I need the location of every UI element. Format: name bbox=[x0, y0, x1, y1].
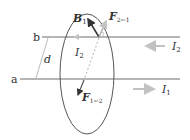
b-field-vector bbox=[88, 19, 99, 37]
diagram-svg: b a d I2 I2 I1 B1 F2←1 F1←2 bbox=[0, 0, 190, 140]
wire-a-label: a bbox=[11, 73, 18, 86]
current-i1-label: I1 bbox=[161, 83, 171, 97]
current-i2-label: I2 bbox=[171, 40, 181, 54]
diagram-canvas: b a d I2 I2 I1 B1 F2←1 F1←2 bbox=[0, 0, 190, 140]
separation-label: d bbox=[44, 53, 51, 66]
force-on-1-label: F1←2 bbox=[81, 91, 103, 104]
current-loop bbox=[60, 14, 114, 134]
wire-b-label: b bbox=[33, 31, 40, 44]
force-on-2-label: F2←1 bbox=[108, 10, 129, 23]
loop-current-label: I2 bbox=[74, 46, 84, 60]
projection-dotted-line bbox=[84, 38, 99, 80]
